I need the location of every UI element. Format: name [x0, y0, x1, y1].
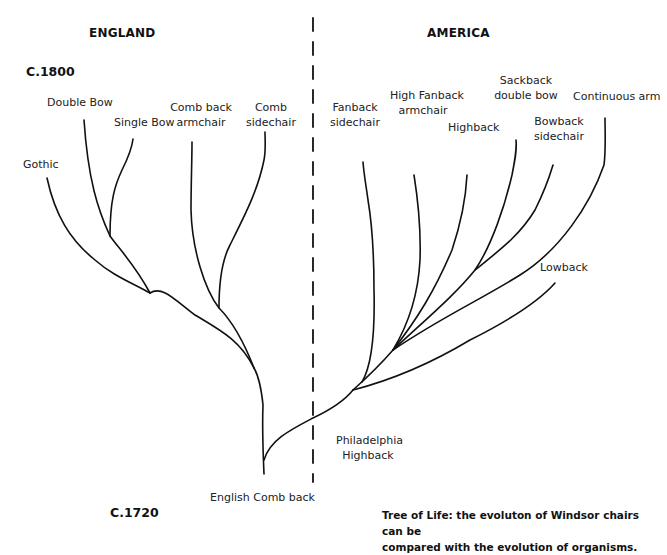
leaf-double-bow: Double Bow: [47, 95, 113, 110]
root-english-comb-back: English Comb back: [210, 490, 315, 505]
leaf-gothic: Gothic: [23, 157, 59, 172]
leaf-highback: Highback: [448, 120, 492, 135]
england-header: ENGLAND: [89, 26, 155, 40]
leaf-comb-sidechair: Comb sidechair: [244, 100, 298, 130]
leaf-sackback-double-bow: Sackback double bow: [493, 73, 559, 103]
america-header: AMERICA: [427, 26, 490, 40]
leaf-high-fanback-armchair: High Fanback armchair: [390, 88, 456, 118]
leaf-bowback-sidechair: Bowback sidechair: [533, 114, 585, 144]
leaf-continuous-arm: Continuous arm: [573, 89, 660, 104]
era-bottom-label: C.1720: [110, 505, 159, 520]
leaf-comb-back-armchair: Comb back armchair: [170, 100, 232, 130]
root-philadelphia-highback: Philadelphia Highback: [336, 433, 400, 463]
leaf-single-bow: Single Bow: [114, 115, 175, 130]
leaf-lowback: Lowback: [540, 260, 588, 275]
era-top-label: C.1800: [26, 64, 75, 79]
leaf-fanback-sidechair: Fanback sidechair: [330, 100, 380, 130]
figure-caption: Tree of Life: the evoluton of Windsor ch…: [382, 507, 662, 555]
